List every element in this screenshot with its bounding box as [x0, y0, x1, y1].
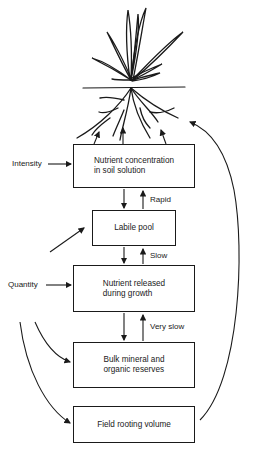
- box-label: Field rooting volume: [97, 420, 171, 430]
- plant-icon: [77, 8, 185, 140]
- label-quantity: Quantity: [8, 280, 38, 290]
- box-field-rooting-volume: Field rooting volume: [73, 406, 195, 443]
- box-bulk-reserves: Bulk mineral and organic reserves: [73, 342, 195, 388]
- box-label: Nutrient released during growth: [103, 279, 165, 299]
- box-label: Nutrient concentration in soil solution: [94, 156, 174, 176]
- box-labile-pool: Labile pool: [92, 210, 176, 246]
- box-nutrient-released: Nutrient released during growth: [73, 265, 195, 312]
- label-slow: Slow: [150, 251, 167, 261]
- label-intensity: Intensity: [12, 159, 42, 169]
- label-rapid: Rapid: [150, 195, 171, 205]
- box-nutrient-concentration: Nutrient concentration in soil solution: [73, 144, 195, 188]
- box-label: Bulk mineral and organic reserves: [104, 355, 165, 375]
- box-label: Labile pool: [114, 223, 154, 233]
- label-very-slow: Very slow: [150, 322, 184, 332]
